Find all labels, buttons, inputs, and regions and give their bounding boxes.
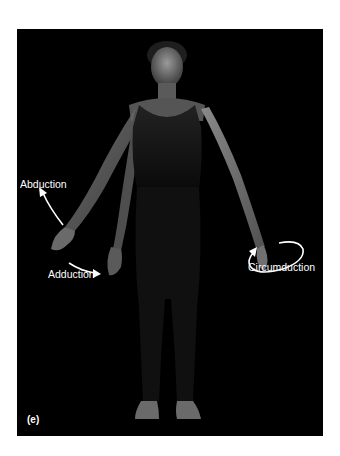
abduction-label: Abduction (20, 178, 67, 190)
left-hand-adducted (107, 247, 122, 275)
abduction-arrow (43, 193, 63, 225)
photo-panel: Abduction Adduction Circumduction (e) (17, 29, 323, 436)
left-hand-abducted (51, 227, 75, 250)
left-foot (135, 401, 159, 419)
legs (135, 187, 200, 401)
torso (133, 105, 202, 189)
neck (158, 83, 176, 99)
right-foot (176, 401, 201, 419)
circumduction-arrowhead (249, 247, 257, 257)
panel-letter: (e) (27, 414, 39, 425)
right-arm (201, 107, 265, 251)
human-figure-illustration (17, 29, 323, 436)
adduction-label: Adduction (48, 268, 95, 280)
head (151, 47, 183, 87)
circumduction-label: Circumduction (248, 261, 315, 273)
